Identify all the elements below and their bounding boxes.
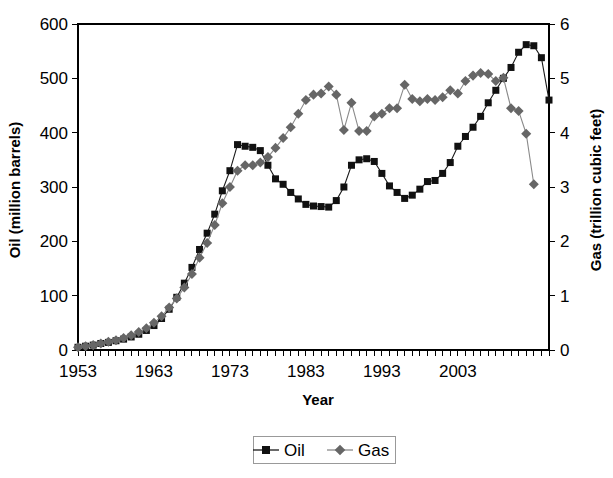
data-point-gas [286, 122, 296, 132]
data-point-oil [492, 87, 499, 94]
data-point-oil [249, 144, 256, 151]
data-point-oil [302, 201, 309, 208]
data-point-oil [264, 162, 271, 169]
data-point-oil [325, 204, 332, 211]
legend-marker-oil [262, 446, 270, 454]
data-point-gas [407, 94, 417, 104]
data-point-oil [447, 159, 454, 166]
y2-tick-label: 1 [560, 287, 569, 306]
data-point-oil [204, 230, 211, 237]
data-point-oil [363, 155, 370, 162]
y-tick-label: 600 [40, 15, 68, 34]
data-point-oil [424, 178, 431, 185]
y-tick-label: 400 [40, 124, 68, 143]
data-point-gas [225, 182, 235, 192]
x-tick-label: 1993 [363, 362, 401, 381]
data-point-gas [73, 342, 83, 352]
x-tick-label: 1963 [135, 362, 173, 381]
data-point-gas [278, 133, 288, 143]
data-point-oil [538, 54, 545, 61]
data-point-oil [416, 186, 423, 193]
data-point-oil [340, 184, 347, 191]
data-point-oil [432, 177, 439, 184]
data-point-gas [392, 103, 402, 113]
data-point-gas [103, 337, 113, 347]
data-point-gas [233, 166, 243, 176]
data-point-gas [195, 253, 205, 263]
data-point-oil [470, 124, 477, 131]
data-point-oil [234, 141, 241, 148]
data-point-oil [242, 143, 249, 150]
data-point-gas [293, 109, 303, 119]
data-point-gas [460, 76, 470, 86]
data-point-oil [272, 175, 279, 182]
y2-tick-label: 6 [560, 15, 569, 34]
chart-container: 0100200300400500600 0123456 195319631973… [0, 0, 613, 478]
data-point-oil [257, 147, 264, 154]
x-axis-title: Year [302, 391, 334, 408]
x-tick-label: 2003 [439, 362, 477, 381]
data-point-gas [529, 179, 539, 189]
data-point-gas [301, 95, 311, 105]
data-point-oil [348, 162, 355, 169]
chart-legend: OilGas [253, 437, 396, 464]
data-point-gas [111, 335, 121, 345]
y-tick-label: 300 [40, 178, 68, 197]
y2-tick-label: 2 [560, 232, 569, 251]
data-point-oil [219, 187, 226, 194]
data-point-oil [280, 181, 287, 188]
x-tick-label: 1953 [59, 362, 97, 381]
data-point-oil [462, 133, 469, 140]
data-point-gas [308, 90, 318, 100]
data-point-gas [88, 340, 98, 350]
x-axis: 195319631973198319932003 [59, 350, 549, 381]
data-point-gas [521, 129, 531, 139]
data-point-oil [508, 64, 515, 71]
data-point-gas [400, 80, 410, 90]
series-line [78, 73, 534, 347]
data-point-oil [515, 49, 522, 56]
data-point-oil [295, 195, 302, 202]
left-y-axis: 0100200300400500600 [40, 15, 78, 360]
data-point-oil [318, 203, 325, 210]
legend-label-oil: Oil [284, 441, 305, 460]
data-point-gas [187, 269, 197, 279]
y2-tick-label: 0 [560, 341, 569, 360]
data-point-oil [477, 113, 484, 120]
data-point-gas [422, 94, 432, 104]
data-point-oil [409, 192, 416, 199]
data-series-group [73, 41, 553, 352]
data-point-oil [523, 41, 530, 48]
data-point-oil [439, 170, 446, 177]
y2-tick-label: 4 [560, 124, 569, 143]
data-point-oil [401, 195, 408, 202]
data-point-oil [333, 197, 340, 204]
data-point-oil [287, 189, 294, 196]
data-point-gas [339, 125, 349, 135]
data-point-oil [310, 203, 317, 210]
data-point-gas [346, 98, 356, 108]
legend-label-gas: Gas [358, 441, 389, 460]
y-tick-label: 0 [59, 341, 68, 360]
data-point-gas [362, 126, 372, 136]
data-point-gas [179, 283, 189, 293]
data-point-oil [371, 158, 378, 165]
data-point-oil [226, 167, 233, 174]
data-point-oil [454, 143, 461, 150]
data-point-oil [530, 42, 537, 49]
data-point-oil [485, 99, 492, 106]
y2-tick-label: 3 [560, 178, 569, 197]
y-tick-label: 200 [40, 232, 68, 251]
y-axis-title: Oil (million barrels) [6, 122, 23, 259]
series-oil [75, 41, 553, 351]
data-point-gas [96, 338, 106, 348]
y2-axis-title: Gas (trillion cubic feet) [587, 109, 604, 272]
y-tick-label: 100 [40, 287, 68, 306]
series-gas [73, 68, 539, 352]
data-point-oil [394, 189, 401, 196]
data-point-gas [415, 96, 425, 106]
dual-axis-line-chart: 0100200300400500600 0123456 195319631973… [0, 0, 613, 478]
y-tick-label: 500 [40, 69, 68, 88]
y2-tick-label: 5 [560, 69, 569, 88]
right-y-axis: 0123456 [549, 15, 569, 360]
